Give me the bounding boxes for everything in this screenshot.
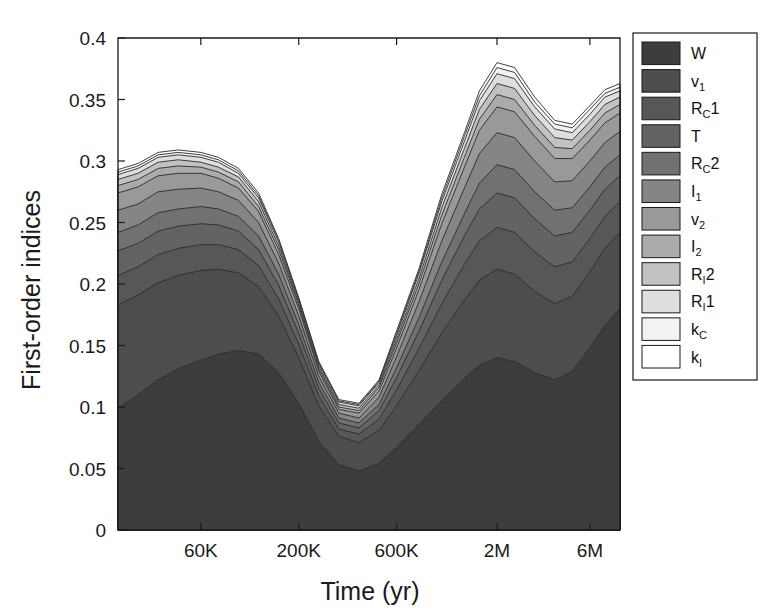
legend-swatch-T [642, 125, 680, 148]
y-tick-label: 0.25 [69, 213, 106, 234]
legend-swatch-RC1 [642, 97, 680, 120]
legend-swatch-W [642, 42, 680, 65]
stacked-area-chart: 00.050.10.150.20.250.30.350.4 60K200K600… [0, 0, 762, 615]
x-tick-label: 2M [484, 540, 510, 561]
legend-swatch-kC [642, 318, 680, 341]
figure-container: 00.050.10.150.20.250.30.350.4 60K200K600… [0, 0, 762, 615]
legend-swatch-RC2 [642, 152, 680, 175]
y-tick-label: 0.15 [69, 336, 106, 357]
x-tick-label: 600K [374, 540, 419, 561]
legend-swatch-RI1 [642, 290, 680, 313]
legend-swatch-v2 [642, 208, 680, 231]
x-axis-title: Time (yr) [320, 577, 419, 605]
legend-item-I1[interactable]: I1 [642, 180, 702, 203]
y-axis-title: First-order indices [17, 190, 45, 390]
legend-label-W: W [691, 45, 707, 62]
legend-label-T: T [691, 128, 701, 145]
legend-item-W[interactable]: W [642, 42, 707, 65]
legend-item-v1[interactable]: v1 [642, 70, 705, 93]
y-tick-label: 0.05 [69, 459, 106, 480]
y-tick-label: 0.4 [80, 28, 107, 49]
y-tick-label: 0.2 [80, 274, 106, 295]
x-tick-label: 200K [277, 540, 322, 561]
legend: Wv1RC1TRC2I1v2I2RI2RI1kCkI [633, 33, 757, 380]
y-tick-label: 0.35 [69, 90, 106, 111]
legend-swatch-RI2 [642, 263, 680, 286]
y-tick-label: 0 [95, 520, 106, 541]
x-tick-label: 6M [577, 540, 603, 561]
legend-item-T[interactable]: T [642, 125, 701, 148]
legend-swatch-I1 [642, 180, 680, 203]
legend-swatch-I2 [642, 235, 680, 258]
legend-item-I2[interactable]: I2 [642, 235, 702, 258]
y-tick-label: 0.3 [80, 151, 106, 172]
x-tick-label: 60K [184, 540, 218, 561]
legend-swatch-v1 [642, 70, 680, 93]
legend-item-kI[interactable]: kI [642, 345, 702, 368]
legend-item-kC[interactable]: kC [642, 318, 707, 341]
y-tick-label: 0.1 [80, 397, 106, 418]
legend-item-v2[interactable]: v2 [642, 208, 705, 231]
legend-swatch-kI [642, 345, 680, 368]
